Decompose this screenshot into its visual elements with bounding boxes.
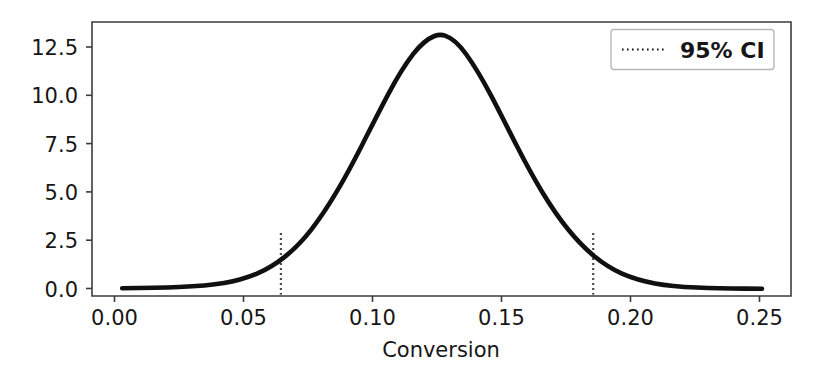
x-tick-label: 0.25 <box>736 306 783 330</box>
y-tick-label: 2.5 <box>45 229 78 253</box>
y-tick-label: 5.0 <box>45 181 78 205</box>
x-tickmarks <box>115 296 760 302</box>
x-tick-label: 0.00 <box>91 306 138 330</box>
x-axis-title: Conversion <box>382 338 500 362</box>
y-tick-label: 0.0 <box>45 278 78 302</box>
y-tickmarks <box>86 47 92 289</box>
x-tick-labels: 0.00 0.05 0.10 0.15 0.20 0.25 <box>91 306 783 330</box>
y-tick-label: 12.5 <box>31 36 78 60</box>
x-tick-label: 0.15 <box>478 306 525 330</box>
figure-canvas: 0.0 2.5 5.0 7.5 10.0 12.5 0.00 0.05 0.10… <box>0 0 820 366</box>
x-tick-label: 0.05 <box>220 306 267 330</box>
y-tick-label: 7.5 <box>45 133 78 157</box>
x-tick-label: 0.10 <box>349 306 396 330</box>
x-tick-label: 0.20 <box>607 306 654 330</box>
y-tick-labels: 0.0 2.5 5.0 7.5 10.0 12.5 <box>31 36 78 302</box>
distribution-plot: 0.0 2.5 5.0 7.5 10.0 12.5 0.00 0.05 0.10… <box>0 0 820 366</box>
y-tick-label: 10.0 <box>31 84 78 108</box>
legend-label-95-ci: 95% CI <box>680 38 765 63</box>
legend[interactable]: 95% CI <box>611 30 774 70</box>
